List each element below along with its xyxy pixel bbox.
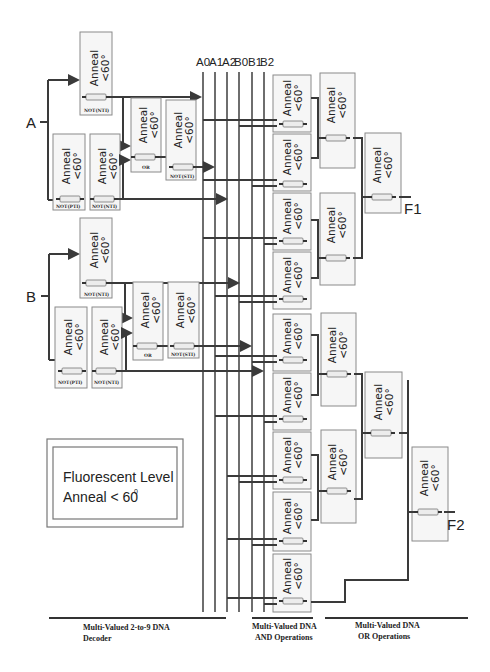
and-caption-1: Multi-Valued DNA	[252, 622, 317, 631]
input-b-label: B	[26, 288, 36, 305]
legend-box: Fluorescent Level Anneal < 60 0	[47, 439, 183, 527]
svg-text:NOT(NTI): NOT(NTI)	[92, 204, 117, 209]
legend-degree-sup: 0	[134, 488, 138, 495]
output-f1-label: F1	[404, 200, 422, 217]
svg-text:OR: OR	[144, 353, 152, 358]
svg-text:OR: OR	[142, 165, 150, 170]
decoder-caption-2: Decoder	[83, 634, 112, 643]
svg-text:<60°: <60°	[292, 261, 304, 288]
svg-text:NOT(NTI): NOT(NTI)	[84, 108, 109, 113]
svg-text:<60°: <60°	[429, 464, 441, 491]
or-caption-1: Multi-Valued DNA	[355, 621, 420, 630]
svg-text:<60°: <60°	[292, 562, 304, 589]
svg-text:<60°: <60°	[292, 322, 304, 349]
svg-text:<60°: <60°	[71, 152, 83, 179]
output-f2-label: F2	[447, 516, 465, 533]
svg-text:NOT(STI): NOT(STI)	[171, 352, 195, 357]
svg-text:<60°: <60°	[292, 143, 304, 170]
legend-line-1: Fluorescent Level	[63, 469, 174, 485]
and-caption-2: AND Operations	[255, 633, 313, 642]
bus-label-a0: A0	[196, 56, 210, 68]
svg-text:<60°: <60°	[292, 441, 304, 468]
svg-text:<60°: <60°	[99, 54, 111, 81]
svg-text:<60°: <60°	[107, 152, 119, 179]
svg-text:<60°: <60°	[336, 91, 348, 118]
bus-labels: A0 A1 A2 B0 B1 B2	[196, 56, 274, 68]
svg-text:<60°: <60°	[183, 116, 195, 143]
svg-text:<60°: <60°	[383, 388, 395, 415]
svg-text:NOT(PTI): NOT(PTI)	[58, 380, 82, 385]
input-a-label: A	[26, 114, 36, 131]
section-captions: Multi-Valued 2-to-9 DNA Decoder Multi-Va…	[49, 618, 468, 643]
svg-text:<60°: <60°	[109, 323, 121, 350]
svg-text:NOT(PTI): NOT(PTI)	[56, 204, 80, 209]
bus-lines	[203, 72, 264, 612]
svg-text:<60°: <60°	[336, 211, 348, 238]
svg-text:<60°: <60°	[292, 84, 304, 111]
svg-text:NOT(STI): NOT(STI)	[170, 174, 194, 179]
svg-text:<60°: <60°	[382, 151, 394, 178]
svg-text:<60°: <60°	[337, 448, 349, 475]
bus-label-b0: B0	[234, 56, 248, 68]
svg-text:<60°: <60°	[150, 296, 162, 323]
svg-text:<60°: <60°	[185, 296, 197, 323]
dna-logic-circuit-diagram: A0 A1 A2 B0 B1 B2 A NOT(NTI) NOT(PTI) NO…	[0, 0, 490, 672]
svg-text:<60°: <60°	[148, 111, 160, 138]
svg-text:NOT(NTI): NOT(NTI)	[84, 292, 109, 297]
svg-text:<60°: <60°	[292, 202, 304, 229]
svg-text:<60°: <60°	[337, 331, 349, 358]
svg-text:NOT(NTI): NOT(NTI)	[94, 380, 119, 385]
decoder-caption-1: Multi-Valued 2-to-9 DNA	[83, 623, 170, 632]
bus-label-b2: B2	[260, 56, 274, 68]
svg-text:<60°: <60°	[73, 323, 85, 350]
svg-text:<60°: <60°	[99, 236, 111, 263]
svg-text:<60°: <60°	[292, 381, 304, 408]
svg-text:<60°: <60°	[292, 502, 304, 529]
legend-line-2: Anneal < 60	[63, 489, 138, 505]
or-caption-2: OR Operations	[358, 632, 410, 641]
bus-label-a1: A1	[209, 56, 223, 68]
